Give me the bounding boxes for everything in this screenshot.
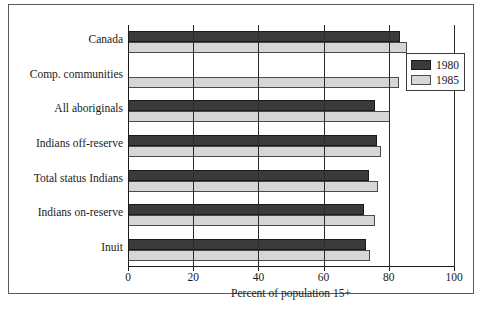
x-tick-label-20: 20 <box>187 271 199 283</box>
gridline-40 <box>258 25 259 267</box>
bar-1985 <box>128 181 378 192</box>
bar-group <box>128 100 454 122</box>
category-label: Indians on-reserve <box>11 206 123 218</box>
gridline-20 <box>193 25 194 267</box>
category-label: All aboriginals <box>11 102 123 114</box>
bar-group <box>128 31 454 53</box>
chart-frame: CanadaComp. communitiesAll aboriginalsIn… <box>8 4 474 294</box>
bar-1980 <box>128 31 400 42</box>
x-tick-label-80: 80 <box>383 271 395 283</box>
source-note <box>10 303 480 314</box>
bar-1980 <box>128 135 377 146</box>
legend-swatch-1980-icon <box>411 60 431 70</box>
bar-group <box>128 170 454 192</box>
legend-item-1980[interactable]: 1980 <box>411 57 459 72</box>
bar-group <box>128 204 454 226</box>
category-axis-labels: CanadaComp. communitiesAll aboriginalsIn… <box>9 5 123 295</box>
x-tick-label-100: 100 <box>445 271 462 283</box>
legend-label-1985: 1985 <box>436 74 459 86</box>
bar-group <box>128 135 454 157</box>
y-axis-spine <box>128 25 129 267</box>
gridline-80 <box>389 25 390 267</box>
bar-1985 <box>128 250 370 261</box>
category-label: Total status Indians <box>11 172 123 184</box>
bar-1980 <box>128 239 366 250</box>
legend[interactable]: 1980 1985 <box>406 53 465 91</box>
x-tick-label-0: 0 <box>125 271 131 283</box>
category-label: Inuit <box>11 241 123 253</box>
bar-group <box>128 239 454 261</box>
legend-label-1980: 1980 <box>436 59 459 71</box>
bar-1985 <box>128 77 399 88</box>
category-label: Comp. communities <box>11 68 123 80</box>
gridline-60 <box>324 25 325 267</box>
bar-1980 <box>128 170 369 181</box>
category-label: Indians off-reserve <box>11 137 123 149</box>
figure: CanadaComp. communitiesAll aboriginalsIn… <box>0 0 483 314</box>
bar-1980 <box>128 204 364 215</box>
legend-item-1985[interactable]: 1985 <box>411 72 459 87</box>
legend-swatch-1985-icon <box>411 75 431 85</box>
bar-1985 <box>128 42 407 53</box>
bar-1985 <box>128 146 381 157</box>
x-axis-title: Percent of population 15+ <box>128 287 454 299</box>
x-tick-label-40: 40 <box>253 271 265 283</box>
category-label: Canada <box>11 33 123 45</box>
x-axis-spine <box>128 266 455 267</box>
bar-1980 <box>128 100 375 111</box>
bar-1985 <box>128 215 375 226</box>
x-tick-label-60: 60 <box>318 271 330 283</box>
